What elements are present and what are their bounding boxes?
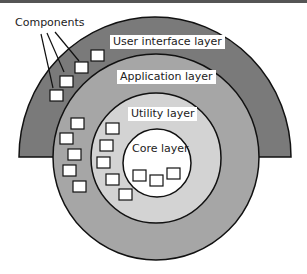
core-layer-label: Core layer [132, 142, 189, 156]
utility-layer-label: Utility layer [128, 107, 197, 121]
components-label: Components [15, 16, 85, 30]
application-layer-label: Application layer [117, 70, 216, 84]
ui-layer-label: User interface layer [110, 35, 225, 49]
core-layer-circle [123, 129, 191, 197]
